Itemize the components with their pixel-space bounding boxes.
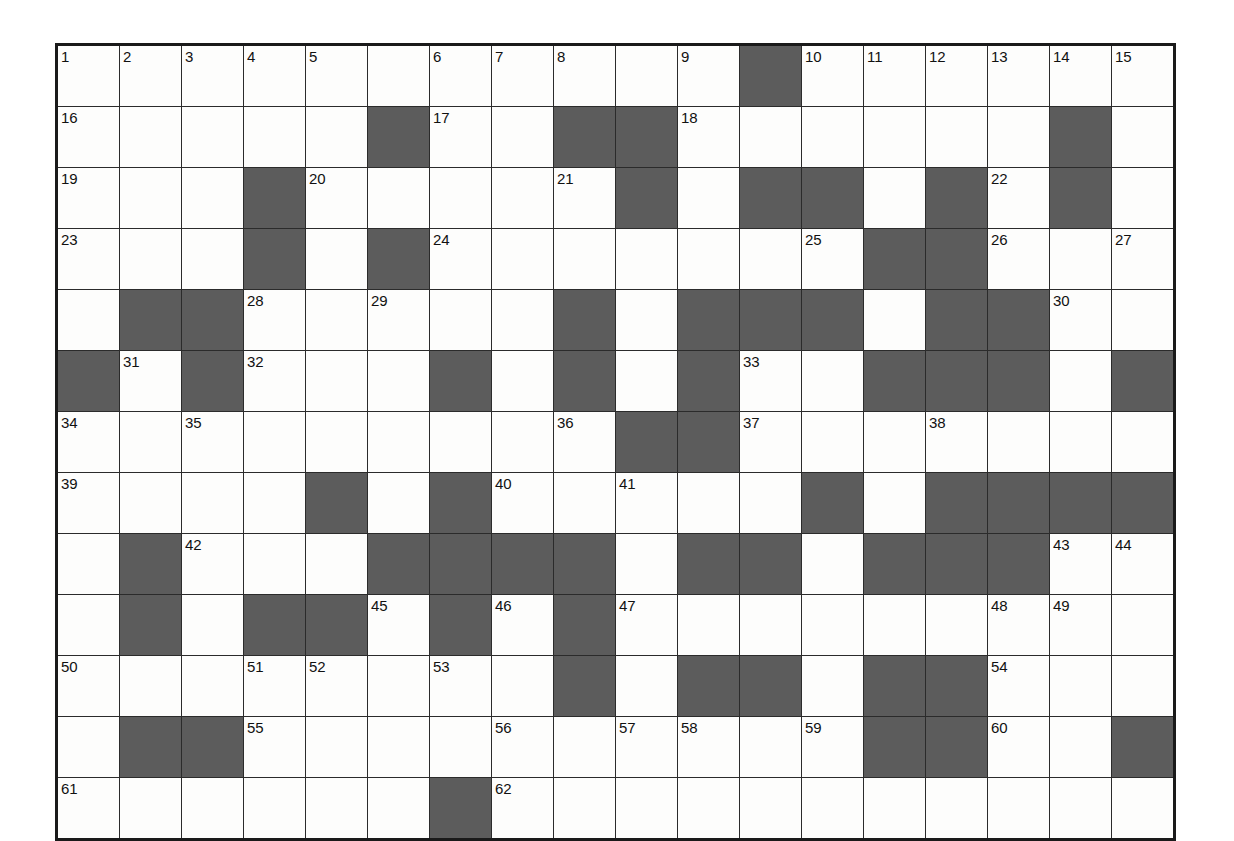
crossword-cell[interactable] <box>244 473 306 534</box>
crossword-cell[interactable]: 34 <box>57 412 120 473</box>
crossword-cell[interactable] <box>1050 351 1112 412</box>
crossword-cell[interactable]: 5 <box>306 45 368 107</box>
crossword-cell[interactable] <box>244 412 306 473</box>
crossword-cell[interactable] <box>120 107 182 168</box>
crossword-cell[interactable]: 36 <box>554 412 616 473</box>
crossword-cell[interactable] <box>430 412 492 473</box>
crossword-cell[interactable]: 41 <box>616 473 678 534</box>
crossword-cell[interactable] <box>182 595 244 656</box>
crossword-cell[interactable]: 12 <box>926 45 988 107</box>
crossword-cell[interactable]: 19 <box>57 168 120 229</box>
crossword-cell[interactable] <box>616 351 678 412</box>
crossword-cell[interactable] <box>802 778 864 840</box>
crossword-cell[interactable]: 8 <box>554 45 616 107</box>
crossword-cell[interactable] <box>616 778 678 840</box>
crossword-cell[interactable] <box>120 412 182 473</box>
crossword-cell[interactable]: 39 <box>57 473 120 534</box>
crossword-cell[interactable] <box>1112 107 1175 168</box>
crossword-cell[interactable]: 55 <box>244 717 306 778</box>
crossword-cell[interactable] <box>740 595 802 656</box>
crossword-cell[interactable] <box>306 290 368 351</box>
crossword-cell[interactable] <box>678 229 740 290</box>
crossword-cell[interactable]: 23 <box>57 229 120 290</box>
crossword-cell[interactable]: 26 <box>988 229 1050 290</box>
crossword-cell[interactable]: 7 <box>492 45 554 107</box>
crossword-cell[interactable] <box>926 595 988 656</box>
crossword-cell[interactable] <box>1050 717 1112 778</box>
crossword-cell[interactable] <box>802 107 864 168</box>
crossword-cell[interactable] <box>492 107 554 168</box>
crossword-cell[interactable]: 37 <box>740 412 802 473</box>
crossword-cell[interactable]: 6 <box>430 45 492 107</box>
crossword-cell[interactable] <box>616 45 678 107</box>
crossword-cell[interactable] <box>1112 778 1175 840</box>
crossword-cell[interactable]: 38 <box>926 412 988 473</box>
crossword-cell[interactable]: 1 <box>57 45 120 107</box>
crossword-cell[interactable] <box>368 168 430 229</box>
crossword-cell[interactable] <box>120 473 182 534</box>
crossword-cell[interactable] <box>802 656 864 717</box>
crossword-cell[interactable] <box>492 168 554 229</box>
crossword-cell[interactable] <box>1050 656 1112 717</box>
crossword-cell[interactable] <box>802 412 864 473</box>
crossword-cell[interactable] <box>1050 412 1112 473</box>
crossword-cell[interactable]: 52 <box>306 656 368 717</box>
crossword-cell[interactable] <box>1112 656 1175 717</box>
crossword-cell[interactable] <box>306 778 368 840</box>
crossword-cell[interactable] <box>120 656 182 717</box>
crossword-cell[interactable] <box>306 534 368 595</box>
crossword-cell[interactable] <box>182 107 244 168</box>
crossword-cell[interactable] <box>616 656 678 717</box>
crossword-cell[interactable] <box>864 290 926 351</box>
crossword-cell[interactable] <box>1112 595 1175 656</box>
crossword-cell[interactable]: 46 <box>492 595 554 656</box>
crossword-cell[interactable]: 28 <box>244 290 306 351</box>
crossword-cell[interactable]: 11 <box>864 45 926 107</box>
crossword-cell[interactable]: 25 <box>802 229 864 290</box>
crossword-cell[interactable]: 45 <box>368 595 430 656</box>
crossword-cell[interactable]: 40 <box>492 473 554 534</box>
crossword-cell[interactable]: 54 <box>988 656 1050 717</box>
crossword-cell[interactable] <box>1112 290 1175 351</box>
crossword-cell[interactable] <box>678 168 740 229</box>
crossword-cell[interactable] <box>368 45 430 107</box>
crossword-cell[interactable] <box>678 595 740 656</box>
crossword-cell[interactable]: 20 <box>306 168 368 229</box>
crossword-cell[interactable]: 47 <box>616 595 678 656</box>
crossword-cell[interactable]: 43 <box>1050 534 1112 595</box>
crossword-cell[interactable] <box>492 351 554 412</box>
crossword-cell[interactable] <box>182 168 244 229</box>
crossword-cell[interactable] <box>740 107 802 168</box>
crossword-cell[interactable]: 29 <box>368 290 430 351</box>
crossword-cell[interactable] <box>988 107 1050 168</box>
crossword-cell[interactable] <box>678 473 740 534</box>
crossword-cell[interactable] <box>368 351 430 412</box>
crossword-cell[interactable] <box>492 412 554 473</box>
crossword-cell[interactable] <box>182 778 244 840</box>
crossword-cell[interactable] <box>926 107 988 168</box>
crossword-cell[interactable]: 18 <box>678 107 740 168</box>
crossword-cell[interactable] <box>182 656 244 717</box>
crossword-cell[interactable] <box>554 473 616 534</box>
crossword-cell[interactable] <box>306 412 368 473</box>
crossword-cell[interactable] <box>802 534 864 595</box>
crossword-cell[interactable] <box>864 168 926 229</box>
crossword-cell[interactable] <box>120 168 182 229</box>
crossword-cell[interactable] <box>678 778 740 840</box>
crossword-cell[interactable] <box>864 412 926 473</box>
crossword-cell[interactable] <box>306 229 368 290</box>
crossword-cell[interactable]: 57 <box>616 717 678 778</box>
crossword-cell[interactable]: 16 <box>57 107 120 168</box>
crossword-cell[interactable] <box>864 595 926 656</box>
crossword-cell[interactable] <box>430 290 492 351</box>
crossword-cell[interactable] <box>988 412 1050 473</box>
crossword-cell[interactable] <box>430 168 492 229</box>
crossword-cell[interactable]: 42 <box>182 534 244 595</box>
crossword-cell[interactable] <box>864 107 926 168</box>
crossword-cell[interactable]: 31 <box>120 351 182 412</box>
crossword-cell[interactable]: 62 <box>492 778 554 840</box>
crossword-cell[interactable] <box>244 778 306 840</box>
crossword-cell[interactable] <box>616 290 678 351</box>
crossword-cell[interactable] <box>554 717 616 778</box>
crossword-cell[interactable]: 30 <box>1050 290 1112 351</box>
